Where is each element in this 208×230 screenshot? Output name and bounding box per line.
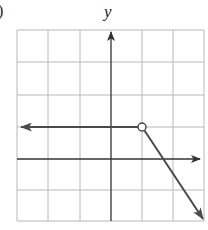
open-circle-point bbox=[138, 123, 146, 131]
right-piece-decreasing bbox=[145, 131, 204, 220]
graph bbox=[0, 0, 208, 230]
